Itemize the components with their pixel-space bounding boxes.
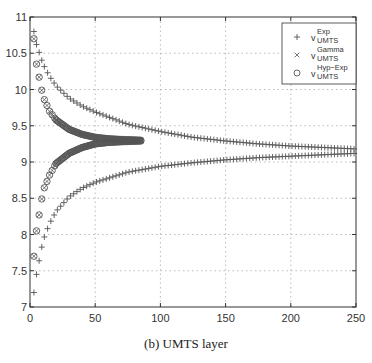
legend-sub: UMTS xyxy=(317,54,338,63)
y-tick-label: 9 xyxy=(21,156,27,168)
y-tick-label: 8.5 xyxy=(12,192,27,204)
legend-label: v xyxy=(311,51,316,61)
y-tick-label: 7.5 xyxy=(12,265,27,277)
x-tick-label: 100 xyxy=(151,312,169,324)
x-tick-label: 200 xyxy=(282,312,300,324)
legend-sup: Exp xyxy=(317,27,330,36)
legend-label: v xyxy=(311,69,316,79)
x-tick-label: 50 xyxy=(89,312,101,324)
legend-sup: Hyp−Exp xyxy=(317,63,348,72)
legend: vExpUMTSvGammaUMTSvHyp−ExpUMTS xyxy=(282,23,356,84)
chart-plot: 05010015020025077.588.599.51010.511 vExp… xyxy=(0,0,372,363)
legend-sub: UMTS xyxy=(317,36,338,45)
x-tick-label: 0 xyxy=(27,312,33,324)
y-tick-label: 7 xyxy=(21,301,27,313)
y-tick-label: 9.5 xyxy=(12,120,27,132)
y-tick-label: 11 xyxy=(16,11,27,23)
figure-caption: (b) UMTS layer xyxy=(0,336,372,352)
x-tick-label: 150 xyxy=(216,312,234,324)
legend-label: v xyxy=(311,33,316,43)
y-tick-label: 10 xyxy=(15,84,27,96)
legend-sub: UMTS xyxy=(317,72,338,81)
y-tick-label: 8 xyxy=(21,229,27,241)
y-tick-label: 10.5 xyxy=(6,47,27,59)
legend-sup: Gamma xyxy=(317,45,345,54)
x-tick-label: 250 xyxy=(347,312,365,324)
